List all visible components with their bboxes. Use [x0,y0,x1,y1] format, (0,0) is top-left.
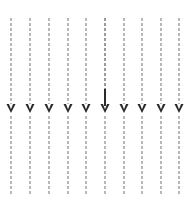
flow-arrows-svg [0,0,192,207]
canvas-background [0,0,192,207]
diagram-canvas [0,0,192,207]
